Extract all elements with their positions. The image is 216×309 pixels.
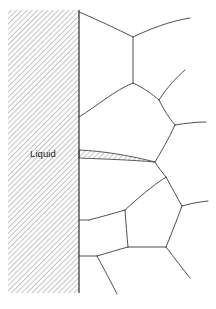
gb-upper-right-face [133,83,159,100]
grain-structure-diagram: Liquid [0,0,216,309]
gb-mid-lower-right [166,206,182,247]
gb-bottom-stem [97,256,117,294]
liquid-wedge-shape [79,150,155,162]
gb-mid-left-face [125,177,166,210]
gb-upper-left-face [79,83,133,117]
gb-left-lower-face [89,210,125,220]
liquid-label: Liquid [30,148,56,159]
liquid-penetration-wedge [79,150,155,162]
microstructure-figure: Liquid [0,0,216,309]
gb-lower-left-down [125,210,128,247]
gb-right-face [159,100,175,125]
gb-right-lower-face [155,125,175,162]
gb-right-spur [175,122,206,125]
gb-mid-right-face [166,177,182,206]
gb-top-right-branch [133,18,190,37]
gb-lower-right-spur [166,247,190,278]
gb-mid-right-spur [182,201,208,206]
gb-top-left-branch [79,12,133,37]
gb-upper-right-spur [159,70,185,100]
gb-bottom-left-face [97,247,128,256]
gb-wedge-to-junction [155,162,166,177]
